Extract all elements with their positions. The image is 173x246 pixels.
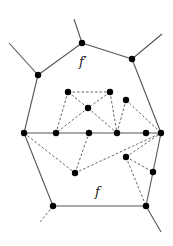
vertex-P: [150, 169, 156, 175]
vertex-Q: [50, 203, 56, 209]
solid-edges: [9, 19, 162, 232]
vertex-E: [158, 130, 164, 136]
face-labels: f′f: [78, 54, 102, 199]
dashed-edge: [56, 108, 88, 133]
vertices: [21, 40, 164, 209]
dashed-edge: [126, 133, 161, 157]
dashed-edge: [88, 108, 117, 133]
solid-edge: [132, 59, 161, 133]
dashed-edge: [75, 133, 89, 173]
vertex-K: [107, 89, 113, 95]
dashed-edge: [126, 100, 161, 133]
face-label-f_prime: f′: [78, 54, 87, 69]
vertex-O: [123, 154, 129, 160]
planar-graph-diagram: f′f: [0, 0, 173, 246]
vertex-H: [114, 130, 120, 136]
solid-edge: [38, 43, 82, 75]
dashed-edge: [75, 133, 161, 173]
solid-edge: [146, 172, 153, 206]
vertex-F: [53, 130, 59, 136]
vertex-D: [21, 130, 27, 136]
dashed-edge: [88, 92, 110, 108]
solid-edge: [153, 133, 161, 172]
solid-edge: [24, 75, 38, 133]
vertex-G: [86, 130, 92, 136]
vertex-J: [65, 89, 71, 95]
vertex-N: [72, 170, 78, 176]
solid-edge: [74, 19, 82, 43]
dashed-edges: [24, 92, 161, 222]
dashed-edge: [126, 157, 153, 172]
vertex-I: [143, 130, 149, 136]
dashed-edge: [68, 92, 88, 108]
vertex-C: [129, 56, 135, 62]
face-label-f: f: [94, 184, 102, 199]
vertex-B: [35, 72, 41, 78]
dashed-edge: [110, 92, 117, 133]
vertex-A: [79, 40, 85, 46]
vertex-L: [85, 105, 91, 111]
solid-edge: [9, 43, 38, 75]
solid-edge: [146, 206, 161, 232]
dashed-edge: [126, 157, 146, 206]
solid-edge: [132, 34, 162, 59]
solid-edge: [82, 43, 132, 59]
dashed-edge: [56, 92, 68, 133]
dashed-edge: [117, 100, 126, 133]
vertex-R: [143, 203, 149, 209]
vertex-M: [123, 97, 129, 103]
